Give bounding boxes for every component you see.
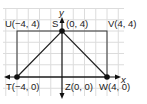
x-axis-arrow-left-icon [4, 75, 10, 80]
point-w-label: W(4, 0) [99, 81, 130, 92]
point-v-label: V(4, 4) [108, 18, 137, 29]
point-t-dot [14, 74, 20, 80]
coordinate-plane: y x U(−4, 4) S (0, 4) V(4, 4) T(−4, 0) Z… [0, 0, 147, 104]
point-s-coords: (0, 4) [66, 18, 88, 29]
point-z-label: Z(0, 0) [65, 81, 93, 92]
point-t-label: T(−4, 0) [6, 81, 40, 92]
point-s-dot [59, 28, 65, 34]
point-w-dot [104, 74, 110, 80]
y-axis-arrow-down-icon [60, 93, 65, 99]
point-u-label: U(−4, 4) [5, 18, 40, 29]
point-s-name: S [52, 18, 58, 29]
